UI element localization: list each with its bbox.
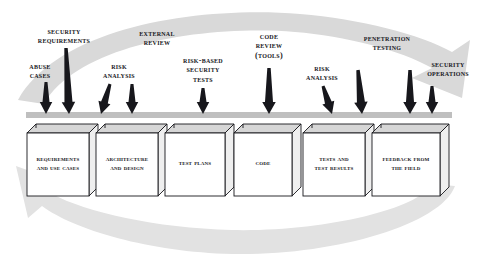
box-open-top (165, 124, 234, 133)
touchpoint-label-security-requirements: Security Requirements (38, 27, 90, 46)
arrow-risk-analysis-1 (98, 84, 111, 114)
box-open-top (96, 124, 167, 133)
artifact-label-code: Code (231, 158, 295, 167)
touchpoint-label-risk-analysis-1: Risk Analysis (103, 62, 135, 81)
box-open-top (303, 124, 374, 133)
touchpoint-label-abuse-cases: Abuse Cases (29, 62, 50, 81)
arrow-code-review-tools (262, 68, 276, 114)
box-open-top (27, 124, 98, 133)
arrow-external-review (126, 84, 139, 114)
touchpoint-label-risk-analysis-2: Risk Analysis (306, 64, 338, 83)
arrow-risk-analysis-2 (322, 86, 335, 114)
touchpoint-label-code-review-tools: Code Review (Tools) (255, 32, 283, 60)
arrow-penetration-testing (354, 70, 367, 114)
artifact-label-tests-and-test-results: Tests and Test Results (300, 153, 368, 171)
arrow-risk-analysis-3 (403, 70, 417, 114)
arrow-risk-based-security-tests (197, 88, 210, 114)
artifact-label-requirements-and-use-cases: Requirements and Use Cases (24, 153, 92, 171)
figure-canvas: Abuse CasesSecurity RequirementsRisk Ana… (0, 0, 488, 263)
box-open-top (372, 124, 449, 133)
artifact-label-test-plans: Test Plans (162, 158, 228, 167)
touchpoint-label-penetration-testing: Penetration Testing (364, 34, 410, 53)
artifact-label-feedback-from-the-field: Feedback from the Field (369, 153, 443, 171)
touchpoint-label-external-review: External Review (139, 29, 174, 48)
touchpoint-label-risk-based-security-tests: Risk-based Security Tests (183, 56, 223, 84)
artifact-label-architecture-and-design: Architecture and Design (93, 153, 161, 171)
touchpoint-label-security-operations: Security Operations (427, 60, 469, 79)
lifecycle-bar (26, 112, 452, 118)
box-open-top (234, 124, 301, 133)
arrow-security-operations (426, 86, 439, 114)
